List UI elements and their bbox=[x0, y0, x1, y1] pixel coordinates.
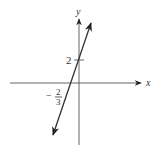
x-intercept-minus: − bbox=[46, 90, 52, 101]
x-axis-label: x bbox=[145, 77, 151, 88]
graph: y x 2 − 2 3 bbox=[0, 0, 158, 151]
y-axis-label: y bbox=[75, 6, 81, 17]
plotted-line bbox=[53, 23, 91, 135]
x-intercept-denominator: 3 bbox=[56, 97, 61, 107]
y-intercept-label: 2 bbox=[66, 54, 72, 66]
x-intercept-numerator: 2 bbox=[56, 87, 61, 97]
